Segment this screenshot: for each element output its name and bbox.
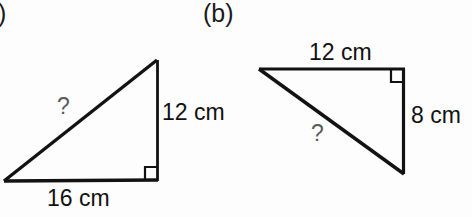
figure-b-top-label: 12 cm — [309, 41, 372, 64]
figure-b-hypotenuse-label: ? — [311, 122, 324, 145]
figure-a-hypotenuse-line — [4, 60, 157, 181]
figure-a-right-angle-icon — [145, 167, 157, 180]
figure-a-base-label: 16 cm — [47, 187, 110, 210]
figure-b-vertical-label: 8 cm — [411, 104, 461, 127]
figure-b-right-angle-icon — [391, 69, 403, 82]
figure-b-hypotenuse-line — [259, 69, 404, 174]
figure-a-hypotenuse-label: ? — [57, 95, 70, 118]
figure-b-triangle — [259, 69, 405, 174]
figure-a-base-line — [4, 180, 158, 181]
figure-a-vertical-label: 12 cm — [162, 101, 225, 124]
figure-a-triangle — [4, 60, 158, 181]
worksheet-canvas: a) (b) ? 12 cm 16 cm 1 — [0, 0, 472, 217]
